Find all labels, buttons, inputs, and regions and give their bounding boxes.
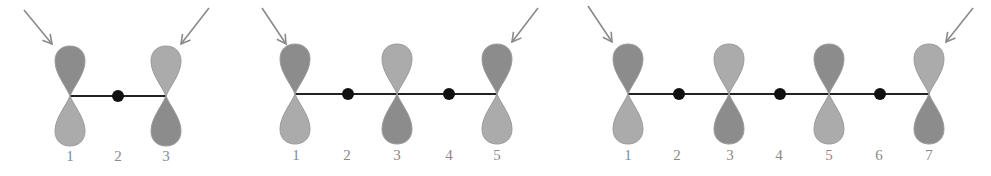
atom-label: 3 <box>162 148 170 164</box>
node-dot-4 <box>443 88 455 100</box>
atom-label: 2 <box>114 148 122 164</box>
atom-label: 2 <box>343 147 351 163</box>
node-dot-2 <box>673 88 685 100</box>
node-dot-2 <box>342 88 354 100</box>
atom-label: 6 <box>875 147 883 163</box>
arrow-icon-left <box>24 10 52 44</box>
atom-label: 2 <box>673 147 681 163</box>
arrow-icon-left <box>588 6 612 42</box>
atom-label: 4 <box>775 147 783 163</box>
diagram-allyl: 1 2 3 <box>24 8 209 164</box>
arrow-icon-right <box>946 8 973 42</box>
arrow-icon-right <box>181 8 209 44</box>
orbital-diagrams: 1 2 3 1 2 3 4 5 <box>0 0 991 176</box>
atom-label: 1 <box>624 147 632 163</box>
atom-label: 5 <box>493 147 501 163</box>
atom-label: 5 <box>825 147 833 163</box>
atom-label: 3 <box>393 147 401 163</box>
arrow-icon-right <box>512 8 538 42</box>
node-dot-4 <box>774 88 786 100</box>
diagram-pentadienyl: 1 2 3 4 5 <box>262 8 538 163</box>
diagram-heptatrienyl: 1 2 3 4 5 6 7 <box>588 6 973 163</box>
atom-label: 1 <box>292 147 300 163</box>
node-dot-6 <box>874 88 886 100</box>
atom-label: 4 <box>445 147 453 163</box>
atom-label: 1 <box>66 148 74 164</box>
node-dot-2 <box>112 90 124 102</box>
arrow-icon-left <box>262 8 286 44</box>
atom-label: 3 <box>726 147 734 163</box>
atom-label: 7 <box>925 147 933 163</box>
